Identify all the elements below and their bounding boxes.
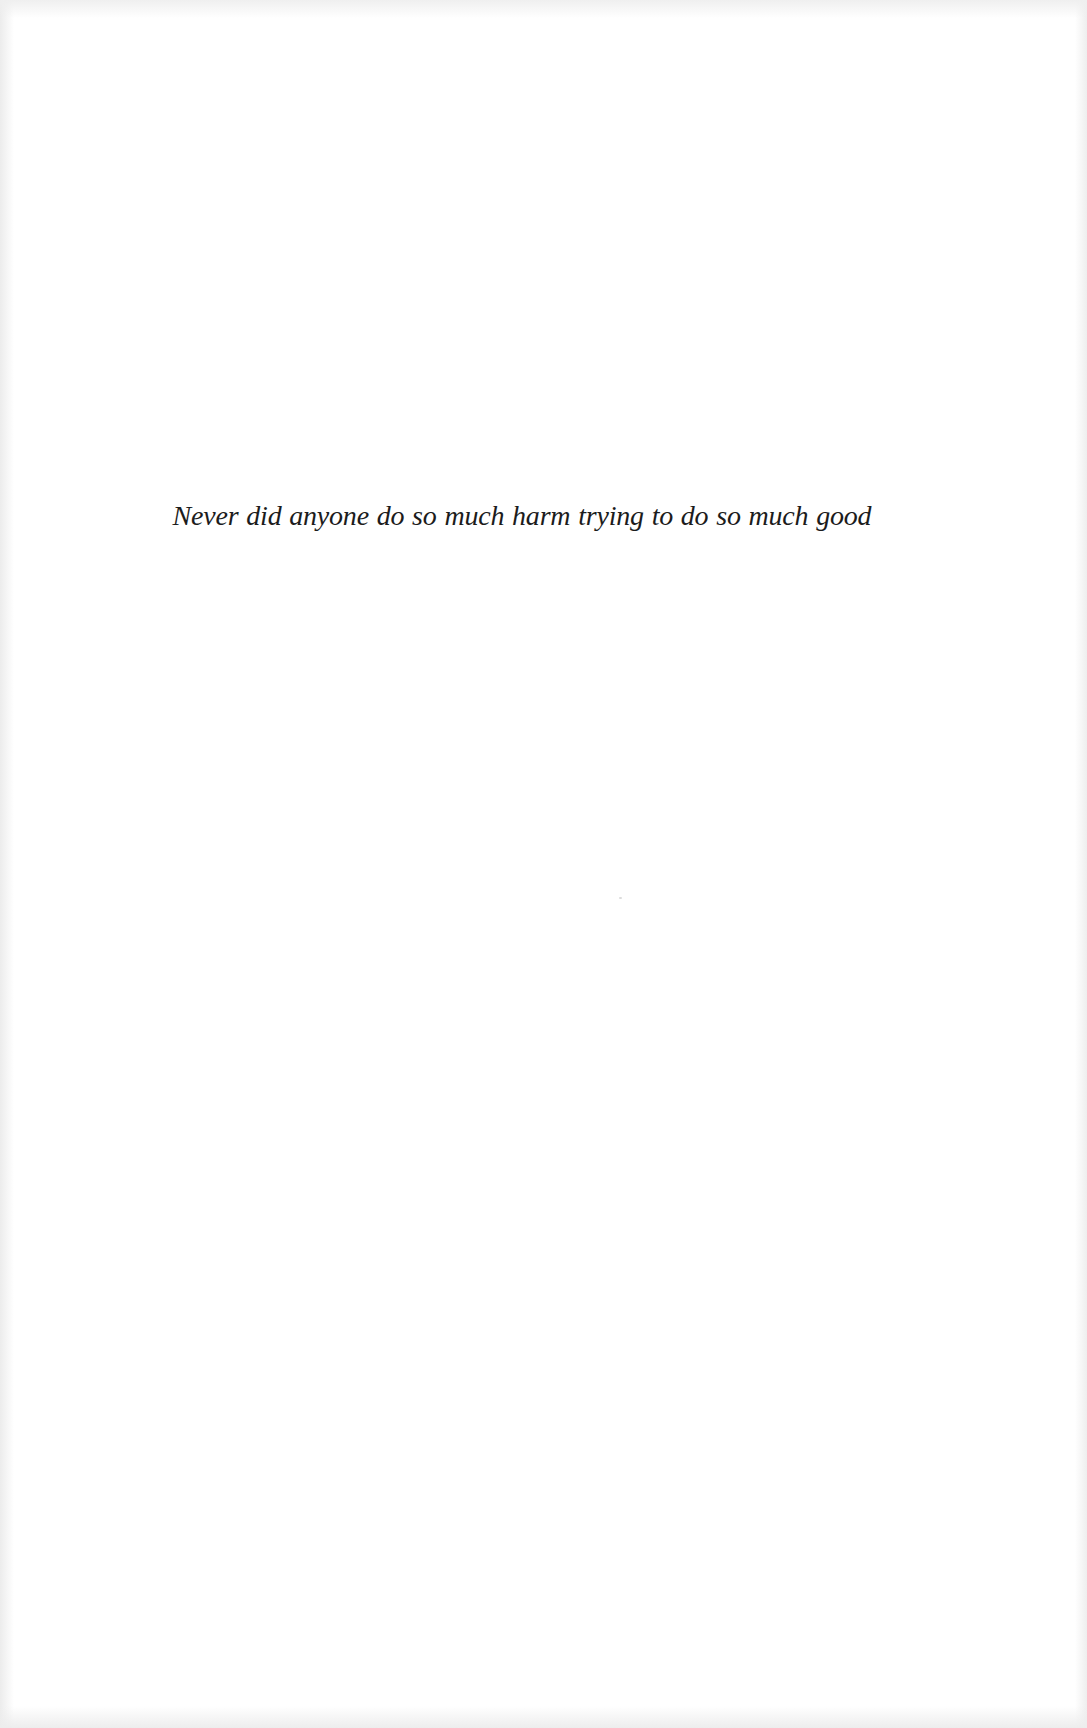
epigraph-quote: Never did anyone do so much harm trying … xyxy=(0,498,1044,534)
scan-speck xyxy=(619,897,622,899)
scan-edge-bottom xyxy=(0,1706,1087,1728)
book-page: Never did anyone do so much harm trying … xyxy=(0,0,1087,1728)
scan-edge-left xyxy=(0,0,14,1728)
scan-edge-top xyxy=(0,0,1087,18)
scan-edge-right xyxy=(1075,0,1087,1728)
